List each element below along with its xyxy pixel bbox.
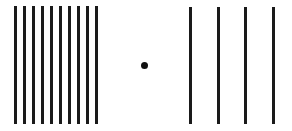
right-grating-bar [272,7,275,124]
fixation-dot [141,62,148,69]
left-grating-bar [50,6,53,124]
right-grating-bar [244,7,247,124]
spatial-frequency-diagram [0,0,292,131]
left-grating-bar [41,6,44,124]
left-grating-bar [14,6,17,124]
left-grating-bar [77,6,80,124]
left-grating-bar [95,6,98,124]
left-grating-bar [68,6,71,124]
right-grating-bar [189,7,192,124]
left-grating-bar [59,6,62,124]
left-grating-bar [23,6,26,124]
left-grating-bar [86,6,89,124]
right-grating-bar [217,7,220,124]
left-grating-bar [32,6,35,124]
